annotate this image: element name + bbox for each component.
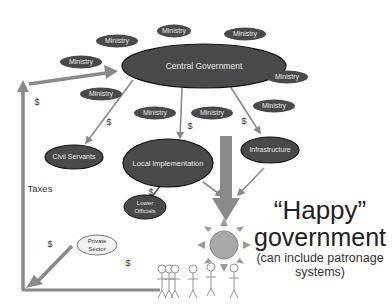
person-icon (229, 264, 239, 298)
dollar-label: $ (241, 116, 246, 126)
dollar-label: $ (47, 239, 52, 249)
dollar-label: $ (106, 117, 111, 127)
person-icon (170, 265, 180, 298)
civil-servants-label: Civil Servants (53, 153, 96, 160)
happy-government-caption: “Happy” government (can include patronag… (250, 196, 390, 279)
person-icon (188, 265, 198, 298)
private-sector-label: Sector (88, 246, 105, 252)
dollar-label: $ (148, 187, 153, 197)
arrow-local-to-sun (203, 182, 222, 196)
ministry-label: Ministry (275, 73, 300, 81)
arrow-infra-to-sun (238, 168, 264, 195)
lower-officials-node[interactable]: Lower Officials (124, 195, 166, 219)
happy-note: (can include patronage (250, 251, 390, 265)
ministry-node[interactable]: Ministry (266, 71, 308, 84)
happy-title: “Happy” (250, 196, 390, 224)
infrastructure-node[interactable]: Infrastructure (241, 137, 299, 163)
dollar-label: $ (125, 258, 130, 268)
local-implementation-label: Local implementation (133, 159, 204, 168)
ministry-label: Ministry (200, 109, 225, 117)
happy-subtitle: government (250, 224, 390, 251)
dollar-label: $ (34, 97, 39, 107)
infrastructure-label: Infrastructure (249, 146, 290, 153)
lower-officials-label: Lower (137, 200, 153, 206)
ministry-label: Ministry (162, 27, 187, 35)
taxes-label: Taxes (28, 183, 53, 194)
lower-officials-label: Officials (134, 208, 155, 214)
ministry-label: Ministry (262, 102, 287, 110)
ministry-node[interactable]: Ministry (96, 35, 138, 48)
dollar-label: $ (187, 121, 192, 131)
people-group (157, 263, 239, 298)
sun-icon (197, 218, 251, 272)
ministry-label: Ministry (89, 90, 114, 98)
person-icon (206, 263, 216, 296)
ministry-node[interactable]: Ministry (253, 100, 295, 113)
ministry-label: Ministry (69, 58, 94, 66)
ministry-label: Ministry (233, 30, 258, 38)
ministry-node[interactable]: Ministry (224, 28, 266, 41)
happy-note: systems) (250, 265, 390, 279)
private-sector-node[interactable]: Private Sector (77, 235, 117, 255)
ministry-node[interactable]: Ministry (134, 107, 176, 120)
ministry-label: Ministry (143, 109, 168, 117)
central-government-label: Central Government (166, 61, 243, 71)
ministry-node[interactable]: Ministry (191, 107, 233, 120)
civil-servants-node[interactable]: Civil Servants (45, 145, 103, 169)
ministry-node[interactable]: Ministry (60, 56, 102, 69)
local-implementation-node[interactable]: Local implementation (123, 139, 213, 187)
ministry-label: Ministry (105, 37, 130, 45)
big-down-arrow (212, 136, 240, 221)
ministry-node[interactable]: Ministry (157, 25, 191, 38)
private-sector-label: Private (88, 238, 107, 244)
central-government-node[interactable]: Central Government (122, 44, 286, 88)
ministry-node[interactable]: Ministry (80, 88, 122, 101)
arrow-to-local-implementation (180, 88, 182, 138)
